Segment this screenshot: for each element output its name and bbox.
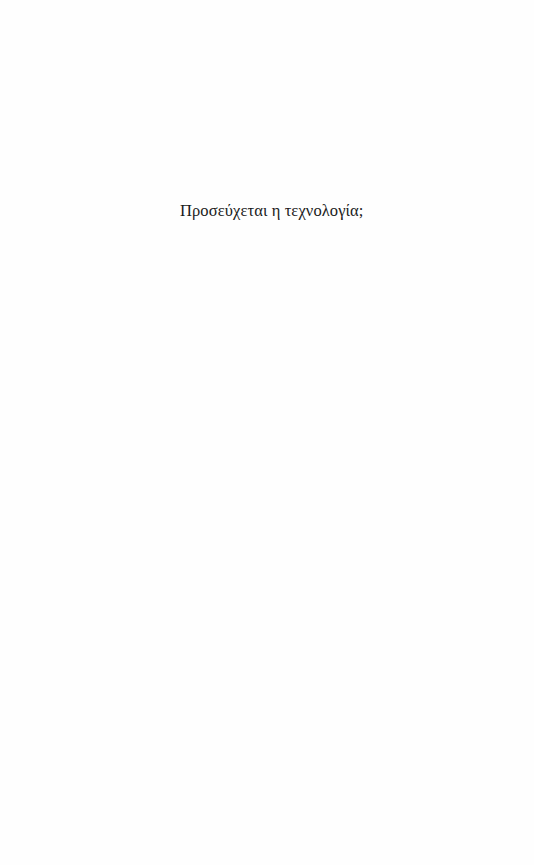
page-title: Προσεύχεται η τεχνολογία; bbox=[180, 201, 364, 221]
document-page: Προσεύχεται η τεχνολογία; bbox=[0, 0, 534, 865]
